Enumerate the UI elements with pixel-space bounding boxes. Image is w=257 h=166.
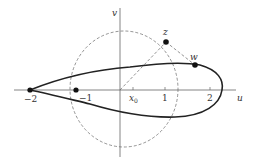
diagram-figure: v u −2 −1 x0 1 2 z w [0, 0, 257, 166]
point-w-label: w [190, 52, 198, 62]
v-axis-label: v [112, 8, 117, 18]
point-minus-two [27, 87, 32, 92]
tick-label-x0: x0 [129, 93, 138, 104]
point-minus-one [73, 87, 78, 92]
dashed-circle [70, 31, 178, 147]
tick-label-1: 1 [162, 93, 168, 103]
point-z [163, 39, 169, 45]
tick-label-2: 2 [207, 93, 213, 103]
tick-label-minus-one: −1 [79, 93, 92, 103]
point-w [192, 62, 198, 68]
u-axis-label: u [237, 93, 243, 103]
tick-label-minus-two: −2 [24, 94, 37, 104]
point-z-label: z [162, 27, 168, 37]
